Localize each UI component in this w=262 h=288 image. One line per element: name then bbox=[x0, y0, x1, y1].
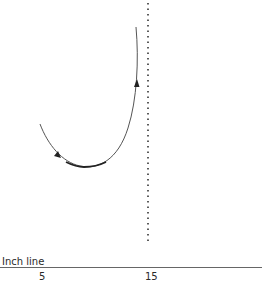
tick-label-5: 5 bbox=[39, 271, 45, 282]
direction-arrow-icon bbox=[134, 79, 140, 87]
tick-label-15: 15 bbox=[145, 271, 158, 282]
trajectory-curve bbox=[40, 27, 137, 167]
diagram-canvas bbox=[0, 0, 262, 288]
axis-label: Inch line bbox=[2, 256, 44, 267]
